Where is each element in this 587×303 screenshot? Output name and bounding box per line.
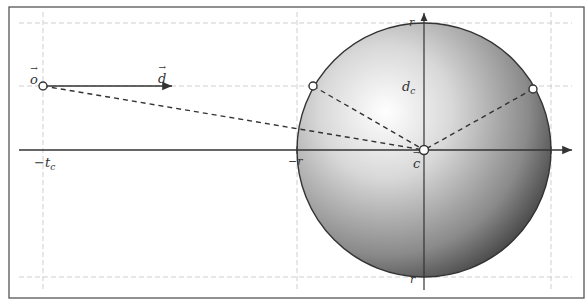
radius-bottom-label: r xyxy=(410,274,415,285)
ray-sphere-diagram xyxy=(0,0,587,303)
ray-origin-point xyxy=(39,82,47,90)
radius-top-label: r xyxy=(409,17,414,28)
origin-label: o xyxy=(30,73,38,86)
radius-left-label: −r xyxy=(288,156,302,167)
center-label: c xyxy=(413,157,420,170)
neg-tc-label: −tc xyxy=(34,156,55,172)
intersection-point-near xyxy=(309,82,317,90)
direction-label: d xyxy=(158,72,166,85)
diagram-canvas: o d c dc −tc r −r r xyxy=(0,0,587,303)
distance-label: dc xyxy=(402,80,415,96)
intersection-point-far xyxy=(529,85,537,93)
